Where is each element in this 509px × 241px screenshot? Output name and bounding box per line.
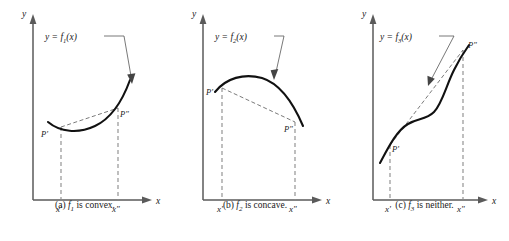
caption-prefix-a: (a) [55,200,66,210]
function-label-tail: (x) [236,32,247,43]
function-label-tail: (x) [66,32,77,43]
caption-prefix-b: (b) [223,200,234,210]
leader-arrowhead [427,76,434,86]
panel-a-plot: y x P' P" x' x" y = f1(x) [0,0,170,215]
function-label: y = f2(x) [214,32,247,44]
panel-c-caption: (c) f3 is neither. [340,200,509,213]
leader-line [104,36,131,76]
function-label: y = f1(x) [44,32,77,44]
panel-a-caption: (a) f1 is convex. [0,200,170,213]
chord-segment [61,108,118,127]
function-label-main: y = f [379,32,399,42]
y-axis-label: y [191,9,197,19]
y-axis-label: y [361,9,367,19]
panel-c-neither: y x P' P" x' x" y = f3(x) (c) f3 is neit… [340,0,509,241]
panel-b-plot: y x P' P" x' x" y = f2(x) [170,0,340,215]
point-label-right: P" [119,109,129,119]
caption-suffix-b: is concave. [243,200,288,210]
y-axis-arrowhead [30,14,37,24]
point-label-left: P' [391,144,399,154]
y-axis-arrowhead [200,14,207,24]
point-label-left: P' [205,87,213,97]
y-axis-label: y [21,9,27,19]
caption-prefix-c: (c) [395,200,406,210]
function-label-tail: (x) [401,32,412,43]
convexity-figure: y x P' P" x' x" y = f1(x) (a) f1 is conv… [0,0,509,241]
point-label-right: P" [283,124,293,134]
panel-a-convex: y x P' P" x' x" y = f1(x) (a) f1 is conv… [0,0,170,241]
caption-suffix-c: is neither. [414,200,453,210]
panel-b-caption: (b) f2 is concave. [170,200,340,213]
function-label: y = f3(x) [379,32,412,44]
y-axis-arrowhead [370,14,377,24]
function-curve [215,76,303,126]
function-label-main: y = f [44,32,64,42]
point-label-right: P" [467,40,477,50]
leader-line [274,36,284,72]
function-label-main: y = f [214,32,234,42]
point-label-left: P' [40,129,48,139]
caption-suffix-a: is convex. [74,200,115,210]
panel-b-concave: y x P' P" x' x" y = f2(x) (b) f2 is conc… [170,0,340,241]
leader-arrowhead [271,69,279,80]
leader-line [432,36,454,78]
panel-c-plot: y x P' P" x' x" y = f3(x) [340,0,509,215]
